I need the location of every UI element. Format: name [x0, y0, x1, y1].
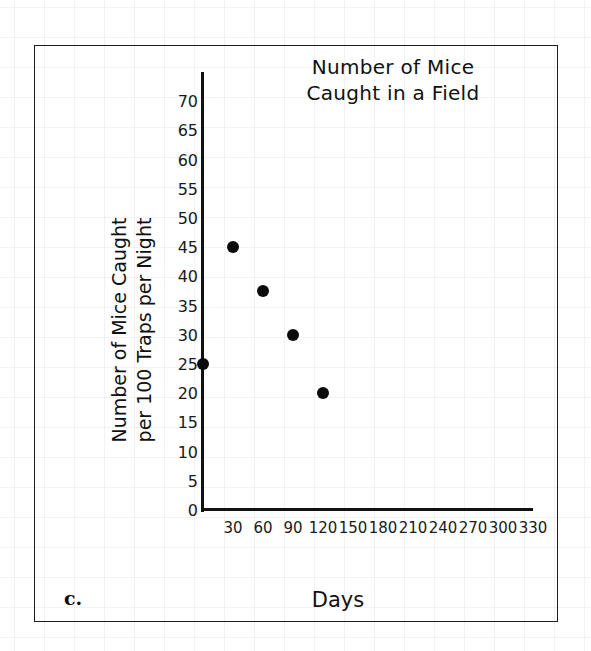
- y-tick-label: 30: [164, 325, 198, 344]
- y-tick-label: 65: [164, 121, 198, 140]
- y-axis-title: Number of Mice Caught per 100 Traps per …: [107, 180, 157, 480]
- part-label: c.: [64, 587, 82, 609]
- y-tick-label: 40: [164, 267, 198, 286]
- y-tick-label: 45: [164, 238, 198, 257]
- y-tick-label: 50: [164, 209, 198, 228]
- y-tick-label: 70: [164, 92, 198, 111]
- y-axis-tick-labels: 0510152025303540455055606570: [160, 0, 198, 651]
- x-axis-tick-labels: 306090120150180210240270300330: [0, 519, 591, 541]
- y-tick-label: 35: [164, 296, 198, 315]
- y-tick-label: 20: [164, 384, 198, 403]
- y-tick-label: 0: [164, 501, 198, 520]
- data-point: [317, 387, 329, 399]
- x-axis-title: Days: [248, 588, 428, 612]
- data-point: [197, 358, 209, 370]
- y-tick-label: 60: [164, 150, 198, 169]
- y-tick-label: 55: [164, 179, 198, 198]
- y-tick-label: 15: [164, 413, 198, 432]
- x-tick-label: 330: [513, 519, 553, 537]
- data-point: [287, 329, 299, 341]
- y-axis-title-line-1: Number of Mice Caught: [107, 180, 132, 480]
- plot-area: [203, 72, 533, 510]
- y-tick-label: 10: [164, 442, 198, 461]
- data-point: [257, 285, 269, 297]
- data-point: [227, 241, 239, 253]
- y-tick-label: 5: [164, 471, 198, 490]
- y-tick-label: 25: [164, 355, 198, 374]
- y-axis-title-line-2: per 100 Traps per Night: [132, 180, 157, 480]
